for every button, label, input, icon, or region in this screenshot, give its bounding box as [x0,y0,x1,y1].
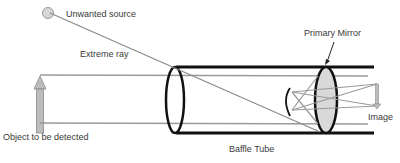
baffle-tube-diagram: Unwanted source Extreme ray Primary Mirr… [0,0,400,163]
label-baffle-tube: Baffle Tube [229,144,274,154]
object-arrow-icon [34,76,46,133]
extreme-ray [50,13,320,132]
image-arrow-icon [373,84,381,109]
pointer-arrowhead-icon [325,59,330,65]
label-primary-mirror: Primary Mirror [304,28,361,38]
secondary-mirror [286,88,290,116]
label-image: Image [368,112,393,122]
primary-mirror-pointer [327,42,334,62]
label-extreme-ray: Extreme ray [80,49,129,59]
label-unwanted-source: Unwanted source [66,9,136,19]
unwanted-source-icon [43,8,54,19]
label-object: Object to be detected [3,132,89,142]
